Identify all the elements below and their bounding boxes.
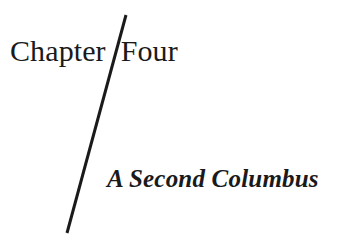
- page-title: ChapterFour: [10, 36, 178, 66]
- chapter-number-word: Four: [121, 34, 178, 67]
- chapter-title-page: ChapterFour A Second Columbus: [0, 0, 339, 250]
- chapter-subtitle: A Second Columbus: [107, 166, 319, 191]
- chapter-word: Chapter: [10, 34, 106, 67]
